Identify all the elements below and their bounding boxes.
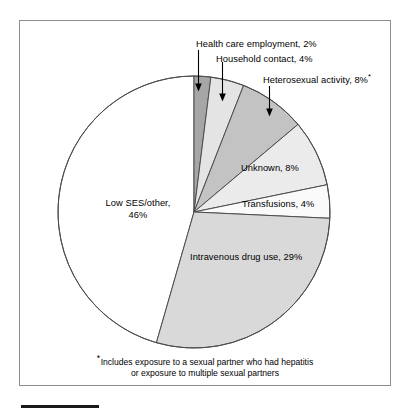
- label-unknown: Unknown, 8%: [241, 163, 299, 175]
- label-heterosexual-activity-text: Heterosexual activity, 8%: [263, 75, 368, 85]
- label-low-ses-other: Low SES/other,46%: [88, 198, 188, 221]
- footnote-line2: or exposure to multiple sexual partners: [131, 368, 279, 378]
- label-transfusions: Transfusions, 4%: [242, 199, 314, 211]
- label-heterosexual-activity: Heterosexual activity, 8%*: [263, 75, 371, 87]
- leader-arrow-health-care-employment: [195, 50, 202, 92]
- label-low-ses-other-line2: 46%: [129, 210, 148, 220]
- label-low-ses-other-line1: Low SES/other,: [106, 198, 171, 208]
- footnote: *Includes exposure to a sexual partner w…: [50, 357, 360, 380]
- caption-rule: [21, 405, 99, 408]
- pie-chart-figure: Health care employment, 2% Household con…: [0, 0, 409, 420]
- footnote-line1: Includes exposure to a sexual partner wh…: [101, 357, 314, 367]
- label-heterosexual-activity-asterisk: *: [368, 72, 371, 81]
- footnote-asterisk: *: [97, 353, 100, 363]
- label-intravenous-drug-use: Intravenous drug use, 29%: [190, 252, 302, 264]
- label-household-contact: Household contact, 4%: [216, 54, 313, 66]
- label-health-care-employment: Health care employment, 2%: [196, 39, 317, 51]
